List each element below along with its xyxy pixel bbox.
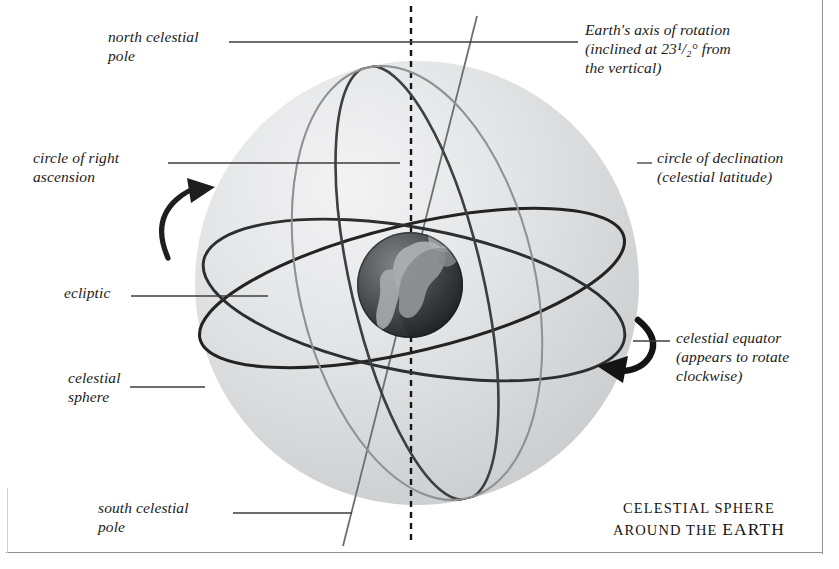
- page-frame-bottom-rule: [6, 552, 823, 553]
- figure-caption: CELESTIAL SPHERE AROUND THE EARTH: [585, 498, 813, 541]
- caption-line-2: AROUND THE EARTH: [585, 519, 813, 541]
- page-frame-left-rule: [7, 488, 8, 553]
- caption-line-1: CELESTIAL SPHERE: [585, 498, 813, 519]
- caption-line-2-prefix: AROUND THE: [613, 522, 722, 538]
- page-frame-right-rule: [822, 0, 823, 554]
- label-north-celestial-pole: north celestial pole: [108, 27, 199, 65]
- label-earth-axis-of-rotation: Earth's axis of rotation (inclined at 23…: [585, 20, 731, 77]
- label-celestial-equator: celestial equator (appears to rotate clo…: [676, 328, 789, 385]
- celestial-sphere-illustration: [0, 0, 839, 569]
- label-circle-of-declination: circle of declination (celestial latitud…: [657, 148, 783, 186]
- figure-page: north celestial pole circle of right asc…: [0, 0, 839, 569]
- label-south-celestial-pole: south celestial pole: [98, 498, 189, 536]
- label-ecliptic: ecliptic: [64, 283, 110, 302]
- label-celestial-sphere: celestial sphere: [68, 368, 121, 406]
- label-circle-of-right-ascension: circle of right ascension: [33, 148, 119, 186]
- caption-earth-word: EARTH: [722, 519, 785, 539]
